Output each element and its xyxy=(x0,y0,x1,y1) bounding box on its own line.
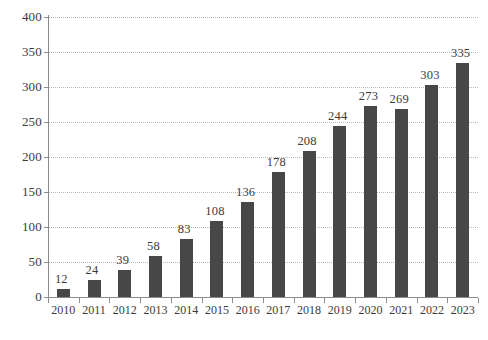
y-axis-tick-label: 150 xyxy=(22,184,42,200)
bar xyxy=(180,239,193,297)
y-axis-tick-label: 100 xyxy=(22,219,42,235)
bar-value-label: 58 xyxy=(134,239,174,254)
bar-chart: 050100150200250300350400 122439588310813… xyxy=(0,0,488,340)
y-axis-tick-label: 0 xyxy=(35,289,42,305)
bar xyxy=(333,126,346,297)
y-axis-tick-label: 300 xyxy=(22,79,42,95)
bar xyxy=(118,270,131,297)
x-axis xyxy=(48,297,478,298)
y-axis-tick-label: 400 xyxy=(22,9,42,25)
y-axis-tick-label: 250 xyxy=(22,114,42,130)
bar-value-label: 108 xyxy=(195,204,235,219)
bar xyxy=(241,202,254,297)
y-axis-tick-label: 200 xyxy=(22,149,42,165)
bar-value-label: 269 xyxy=(379,92,419,107)
cropped-caption xyxy=(34,331,204,340)
bar xyxy=(88,280,101,297)
bar xyxy=(210,221,223,297)
bar xyxy=(395,109,408,297)
bar-value-label: 136 xyxy=(226,185,266,200)
bar-value-label: 83 xyxy=(164,222,204,237)
y-axis-tick-label: 50 xyxy=(29,254,42,270)
bars-layer: 1224395883108136178208244273269303335 xyxy=(48,17,478,297)
x-axis-tick-label: 2023 xyxy=(443,303,483,318)
bar-value-label: 244 xyxy=(318,109,358,124)
bar xyxy=(456,63,469,298)
bar-value-label: 335 xyxy=(441,46,481,61)
bar xyxy=(272,172,285,297)
y-axis-tick-label: 350 xyxy=(22,44,42,60)
bar xyxy=(57,289,70,297)
y-axis-tick-labels: 050100150200250300350400 xyxy=(0,0,42,340)
bar xyxy=(303,151,316,297)
bar-value-label: 39 xyxy=(103,253,143,268)
bar xyxy=(149,256,162,297)
bar xyxy=(425,85,438,297)
bar-value-label: 208 xyxy=(287,134,327,149)
bar xyxy=(364,106,377,297)
bar-value-label: 303 xyxy=(410,68,450,83)
bar-value-label: 178 xyxy=(256,155,296,170)
